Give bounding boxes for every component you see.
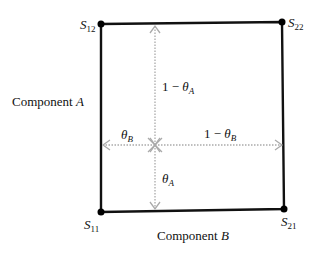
arrowheads <box>103 26 282 209</box>
label-one-minus-theta-a: 1 − θA <box>162 80 194 96</box>
distance-arrows <box>103 26 282 209</box>
corner-label-s11: S11 <box>84 218 99 234</box>
label-theta-b: θB <box>121 128 133 144</box>
component-a-label: Component A <box>12 95 84 108</box>
label-one-minus-theta-b: 1 − θB <box>204 127 236 143</box>
composition-square <box>101 22 284 212</box>
label-theta-a: θA <box>162 172 174 188</box>
corner-label-s12: S12 <box>80 18 96 34</box>
corner-points <box>98 19 288 216</box>
component-b-label: Component B <box>157 229 229 242</box>
corner-label-s22: S22 <box>288 16 304 32</box>
corner-label-s21: S21 <box>281 215 297 231</box>
diagram-canvas <box>0 0 318 256</box>
